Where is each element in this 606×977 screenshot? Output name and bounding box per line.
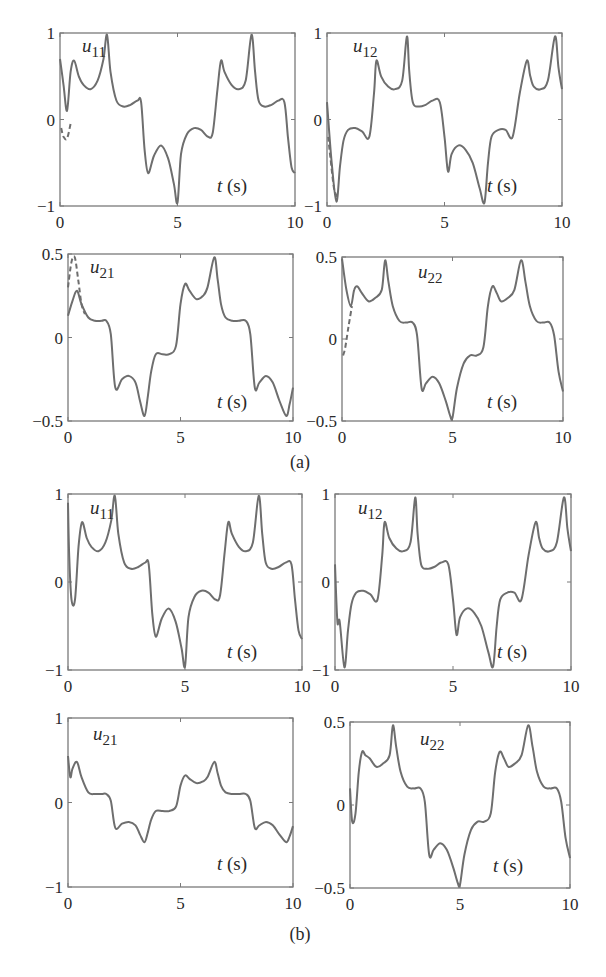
y-tick-label: −1 [304, 197, 322, 216]
x-tick-label: 5 [440, 213, 449, 232]
y-tick-label: 0 [337, 796, 346, 815]
x-tick-label: 5 [448, 428, 457, 447]
caption-b: (b) [290, 924, 311, 945]
y-tick-label: 1 [55, 485, 64, 504]
x-tick-label: 5 [449, 677, 458, 696]
y-tick-label: −0.5 [32, 412, 63, 431]
x-tick-label: 5 [181, 677, 190, 696]
series-reference [343, 306, 352, 355]
y-tick-label: 1 [314, 24, 323, 43]
caption-a: (a) [290, 452, 310, 473]
series-actual [350, 725, 570, 887]
y-tick-label: 0 [314, 111, 323, 130]
y-tick-label: 0.5 [42, 245, 63, 264]
y-tick-label: 0 [322, 573, 331, 592]
subplot-b-u12: 0510−101u12t (s) [312, 485, 580, 696]
x-tick-label: 5 [456, 895, 465, 914]
x-tick-label: 0 [323, 213, 332, 232]
y-tick-label: −0.5 [306, 412, 337, 431]
y-tick-label: 1 [47, 24, 56, 43]
y-tick-label: 0 [55, 329, 64, 348]
series-actual [327, 36, 562, 203]
x-axis-label: t (s) [493, 855, 523, 877]
y-tick-label: 0 [329, 330, 338, 349]
x-tick-label: 10 [563, 677, 580, 696]
x-tick-label: 5 [176, 428, 185, 447]
curve-label: u21 [93, 723, 118, 748]
curve-label: u11 [90, 497, 114, 522]
x-axis-label: t (s) [487, 391, 517, 413]
x-tick-label: 10 [294, 677, 311, 696]
x-axis-label: t (s) [217, 853, 247, 875]
x-tick-label: 10 [555, 428, 572, 447]
x-tick-label: 0 [64, 428, 73, 447]
y-tick-label: 0.5 [316, 248, 337, 267]
curve-label: u21 [90, 256, 115, 281]
x-axis-label: t (s) [487, 175, 517, 197]
y-tick-label: 0 [55, 573, 64, 592]
x-tick-label: 0 [338, 428, 347, 447]
y-tick-label: −1 [37, 197, 55, 216]
y-tick-label: 1 [322, 485, 331, 504]
y-tick-label: −1 [45, 661, 63, 680]
y-tick-label: −1 [312, 661, 330, 680]
series-actual [342, 259, 563, 420]
x-tick-label: 10 [287, 213, 304, 232]
x-axis-label: t (s) [217, 391, 247, 413]
curve-label: u12 [358, 497, 383, 522]
series-actual [335, 497, 571, 667]
x-tick-label: 0 [331, 677, 340, 696]
x-tick-label: 10 [554, 213, 571, 232]
y-tick-label: 0 [55, 794, 64, 813]
x-tick-label: 5 [176, 894, 185, 913]
figure-canvas: 0510−101u11t (s)0510−101u12t (s)0510−0.5… [0, 0, 606, 977]
series-actual [68, 756, 293, 842]
y-tick-label: 0 [47, 111, 56, 130]
curve-label: u12 [353, 35, 378, 60]
subplot-a-u11: 0510−101u11t (s) [37, 24, 304, 232]
x-tick-label: 5 [173, 213, 182, 232]
subplot-b-u11: 0510−101u11t (s) [45, 485, 311, 696]
subplot-a-u12: 0510−101u12t (s) [304, 24, 571, 232]
x-tick-label: 10 [285, 428, 302, 447]
series-actual [68, 257, 293, 416]
x-tick-label: 0 [64, 894, 73, 913]
curve-label: u22 [420, 728, 445, 753]
subplot-b-u22: 0510−0.500.5u22t (s) [314, 713, 578, 914]
x-axis-label: t (s) [227, 641, 257, 663]
x-tick-label: 0 [64, 677, 73, 696]
y-tick-label: 1 [55, 709, 64, 728]
axes-frame [350, 722, 570, 888]
curve-label: u22 [418, 261, 443, 286]
x-axis-label: t (s) [217, 175, 247, 197]
subplot-b-u21: 0510−101u21t (s) [45, 709, 302, 913]
x-tick-label: 10 [285, 894, 302, 913]
x-tick-label: 10 [562, 895, 579, 914]
curve-label: u11 [82, 35, 106, 60]
x-tick-label: 0 [56, 213, 65, 232]
series-reference [61, 124, 70, 140]
axes-frame [342, 257, 563, 421]
x-tick-label: 0 [346, 895, 355, 914]
x-axis-label: t (s) [497, 641, 527, 663]
subplot-a-u22: 0510−0.500.5u22t (s) [306, 248, 571, 447]
y-tick-label: −1 [45, 878, 63, 897]
subplot-a-u21: 0510−0.500.5u21t (s) [32, 245, 301, 447]
y-tick-label: 0.5 [324, 713, 345, 732]
y-tick-label: −0.5 [314, 879, 345, 898]
